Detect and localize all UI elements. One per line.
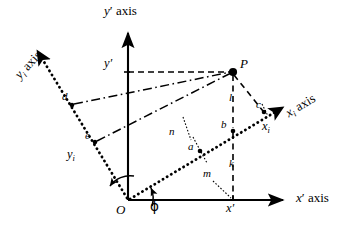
coord-label-x-i: xi [262, 120, 270, 134]
axis-x-i-line [130, 108, 282, 199]
angle-label-phi: ϕ [150, 200, 159, 214]
point-b-dot [231, 129, 236, 134]
point-c-dot [262, 110, 267, 115]
tick-m [213, 181, 231, 198]
point-label-O: O [116, 203, 125, 216]
segment-label-m: m [203, 168, 211, 179]
axis-label-y-prime: y′ axis [104, 4, 137, 17]
coordinate-transformation-diagram: y′ axis x′ axis xi axis yi axis P O ϕ a … [0, 0, 364, 233]
point-label-a: a [188, 141, 194, 152]
point-label-c: c [256, 99, 261, 110]
point-label-P: P [240, 57, 248, 70]
line-e-to-P [97, 73, 231, 141]
point-a-dot [198, 149, 203, 154]
segment-label-k: k [229, 158, 234, 169]
axis-label-x-prime: x′ axis [296, 191, 329, 204]
axis-y-i-line [38, 52, 127, 198]
point-d-dot [70, 103, 75, 108]
line-d-to-P [74, 72, 231, 104]
point-e-dot [93, 140, 98, 145]
segment-label-n: n [169, 126, 175, 137]
point-P-dot [229, 68, 237, 76]
coord-label-x-prime: x′ [226, 202, 234, 215]
point-label-d: d [62, 91, 68, 102]
tick-n [183, 117, 191, 140]
segment-label-l: l [229, 92, 232, 103]
coord-label-y-prime: y′ [104, 57, 112, 70]
point-label-b: b [221, 119, 227, 130]
inclined-axes [38, 52, 282, 199]
point-label-e: e [85, 130, 90, 141]
coord-label-y-i: yi [67, 148, 75, 162]
dash-dot-lines [74, 72, 231, 141]
